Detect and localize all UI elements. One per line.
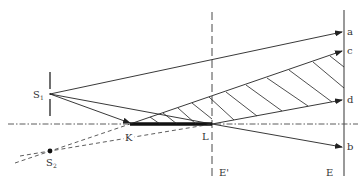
label-k: K <box>125 132 133 143</box>
virtual-source-s2 <box>48 149 53 154</box>
lloyd-mirror-diagram: S 1 S 2 K L E' E a c d b <box>0 0 358 189</box>
ray-to-d <box>212 100 342 124</box>
ray-s1-to-l <box>50 94 212 124</box>
ray-to-c <box>130 51 342 124</box>
label-l: L <box>202 131 209 142</box>
source-s1 <box>49 93 51 95</box>
label-s1-sub: 1 <box>40 94 44 101</box>
label-c: c <box>347 45 353 56</box>
label-e: E <box>326 167 333 178</box>
ray-s1-to-k <box>50 94 130 123</box>
ray-to-b <box>212 124 342 147</box>
ray-to-a <box>50 32 342 94</box>
label-s2: S <box>46 157 53 168</box>
label-a: a <box>347 26 353 37</box>
label-e-prime: E' <box>219 167 229 178</box>
virtual-ray-s2-k <box>15 124 130 163</box>
label-b: b <box>347 141 353 152</box>
label-s2-sub: 2 <box>53 162 57 169</box>
label-d: d <box>347 94 354 105</box>
label-s1: S <box>33 89 40 100</box>
